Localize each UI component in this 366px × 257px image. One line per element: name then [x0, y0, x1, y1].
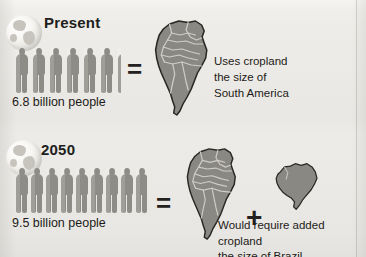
cropland-infographic: Present 6.8 b — [0, 0, 366, 257]
equals-symbol: = — [127, 56, 142, 82]
person-figure — [89, 168, 104, 214]
present-population-label: 6.8 billion people — [12, 95, 106, 109]
person-figure — [82, 48, 97, 94]
person-figure-partial — [134, 168, 147, 214]
south-america-map — [152, 18, 214, 118]
person-figure-partial — [116, 48, 121, 94]
person-figure — [104, 168, 119, 214]
globe-americas-icon — [6, 15, 42, 51]
year-2050-population-label: 9.5 billion people — [12, 216, 106, 230]
person-figure — [31, 48, 46, 94]
present-people-figures — [14, 48, 134, 94]
person-figure — [14, 168, 29, 214]
person-figure — [65, 48, 80, 94]
person-figure — [119, 168, 134, 214]
person-figure — [48, 48, 63, 94]
equals-symbol: = — [156, 190, 171, 216]
year-2050-row: 2050 — [0, 128, 366, 257]
person-figure — [74, 168, 89, 214]
present-callout-text: Uses cropland the size of South America — [214, 54, 289, 102]
person-figure — [59, 168, 74, 214]
person-figure — [99, 48, 114, 94]
present-heading: Present — [44, 14, 100, 31]
person-figure — [29, 168, 44, 214]
person-figure — [44, 168, 59, 214]
year-2050-heading: 2050 — [41, 141, 75, 158]
year-2050-people-figures — [14, 168, 154, 214]
year-2050-callout-text: Would require added cropland the size of… — [218, 218, 366, 257]
present-row: Present 6.8 b — [0, 0, 366, 128]
person-figure — [14, 48, 29, 94]
brazil-map — [272, 158, 322, 215]
